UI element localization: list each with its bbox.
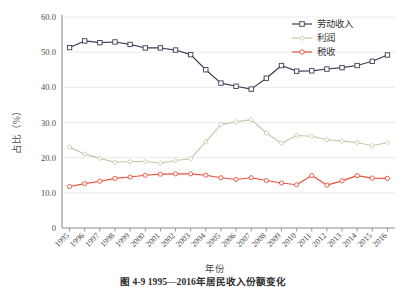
data-point <box>264 76 268 80</box>
data-point <box>249 176 253 180</box>
legend-label: 利润 <box>317 32 335 43</box>
data-point <box>325 67 329 71</box>
data-point <box>83 39 87 43</box>
data-point <box>113 176 117 180</box>
data-point <box>188 52 192 56</box>
data-point <box>143 46 147 50</box>
figure-container: 010.020.030.040.050.060.0 19951996199719… <box>0 0 406 287</box>
data-point <box>219 81 223 85</box>
data-point <box>204 173 208 177</box>
data-point <box>370 59 374 63</box>
data-point <box>279 181 283 185</box>
y-tick-label: 40.0 <box>41 82 56 92</box>
data-point <box>113 40 117 44</box>
data-point <box>98 40 102 44</box>
data-point <box>249 87 253 91</box>
legend-marker <box>300 50 304 54</box>
y-axis-title: 占比（%） <box>11 106 22 154</box>
data-point <box>83 182 87 186</box>
data-point <box>128 175 132 179</box>
data-point <box>204 68 208 72</box>
data-point <box>158 172 162 176</box>
data-point <box>158 46 162 50</box>
legend-label: 税收 <box>317 46 336 57</box>
data-point <box>294 69 298 73</box>
data-point <box>67 184 71 188</box>
data-point <box>173 48 177 52</box>
data-point <box>279 63 283 67</box>
line-chart: 010.020.030.040.050.060.0 19951996199719… <box>0 0 406 287</box>
data-point <box>310 69 314 73</box>
legend-label: 劳动收入 <box>317 18 354 29</box>
y-tick-label: 0 <box>52 223 56 233</box>
y-tick-label: 50.0 <box>41 47 56 57</box>
figure-caption: 图 4-9 1995—2016年居民收入份额变化 <box>120 276 286 287</box>
y-tick-label: 60.0 <box>41 12 56 22</box>
data-point <box>370 176 374 180</box>
data-point <box>189 172 193 176</box>
data-point <box>295 183 299 187</box>
data-point <box>128 42 132 46</box>
data-point <box>310 174 314 178</box>
data-point <box>385 176 389 180</box>
data-point <box>67 45 71 49</box>
data-point <box>234 84 238 88</box>
data-point <box>173 172 177 176</box>
y-tick-label: 30.0 <box>41 118 56 128</box>
data-point <box>98 179 102 183</box>
data-point <box>340 65 344 69</box>
y-tick-label: 20.0 <box>41 153 56 163</box>
data-point <box>143 173 147 177</box>
data-point <box>264 178 268 182</box>
data-point <box>355 63 359 67</box>
data-point <box>340 179 344 183</box>
data-point <box>325 183 329 187</box>
data-point <box>355 174 359 178</box>
data-point <box>234 177 238 181</box>
y-tick-label: 10.0 <box>41 188 56 198</box>
data-point <box>385 53 389 57</box>
x-axis-title: 年份 <box>205 263 225 274</box>
data-point <box>219 176 223 180</box>
legend-marker <box>300 22 305 27</box>
